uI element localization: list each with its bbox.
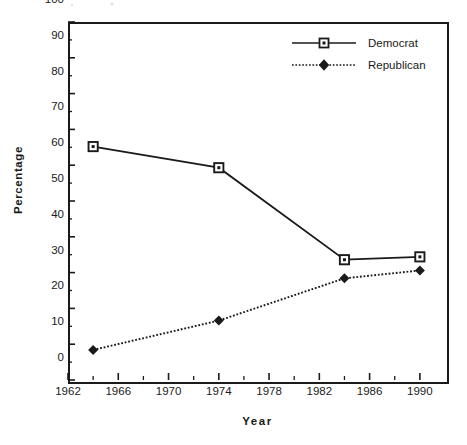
legend-item-republican[interactable]: Republican	[290, 54, 440, 76]
data-point-republican	[214, 316, 224, 326]
legend-label-democrat: Democrat	[358, 37, 418, 49]
series-line-republican	[93, 270, 420, 349]
chart-container: 0102030405060708090100 19621966197019741…	[0, 0, 467, 445]
data-point-democrat	[415, 252, 424, 261]
legend-swatch-republican	[290, 57, 358, 73]
data-point-democrat	[89, 142, 98, 151]
legend-label-republican: Republican	[358, 59, 426, 71]
data-point-democrat	[340, 255, 349, 264]
series-line-democrat	[93, 147, 420, 260]
data-point-republican	[88, 345, 98, 355]
legend-swatch-democrat	[290, 35, 358, 51]
series-layer	[88, 142, 425, 355]
data-point-republican	[415, 265, 425, 275]
data-point-democrat	[214, 163, 223, 172]
legend: Democrat Republican	[290, 32, 440, 76]
legend-item-democrat[interactable]: Democrat	[290, 32, 440, 54]
data-point-republican	[339, 273, 349, 283]
